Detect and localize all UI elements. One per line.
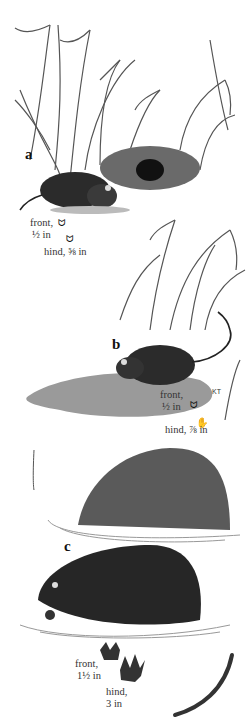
track-caption-b-front: front,: [160, 389, 183, 400]
track-icons: [100, 642, 145, 682]
track-caption-a-front: front,: [30, 217, 53, 228]
svg-text:ᗢ: ᗢ: [66, 234, 74, 244]
track-caption-b-hind: hind, ⅞ in: [165, 424, 208, 435]
track-caption-a-front-size: ½ in: [32, 229, 51, 240]
track-caption-b-front-size: ½ in: [162, 401, 181, 412]
muskrat-tail-icon: [175, 655, 232, 715]
track-caption-c-hind: hind,: [106, 686, 127, 697]
svg-text:ᗢ: ᗢ: [190, 400, 198, 410]
svg-text:ᗢ: ᗢ: [58, 218, 66, 228]
track-caption-c-front-size: 1½ in: [77, 670, 101, 681]
illustration-artwork: ᗢ ᗢ KT ᗢ ✋: [0, 0, 252, 728]
rat-icon: [116, 312, 231, 385]
muskrat-lodge-icon: [78, 448, 230, 530]
track-caption-c-front: front,: [75, 658, 98, 669]
artist-signature: KT: [212, 388, 222, 395]
panel-label-a: a: [25, 146, 33, 163]
panel-label-b: b: [112, 336, 120, 353]
track-caption-a-hind: hind, ⅝ in: [44, 246, 87, 257]
track-caption-c-hind-size: 3 in: [106, 698, 122, 709]
muskrat-icon: [20, 545, 230, 638]
panel-label-c: c: [64, 538, 71, 555]
